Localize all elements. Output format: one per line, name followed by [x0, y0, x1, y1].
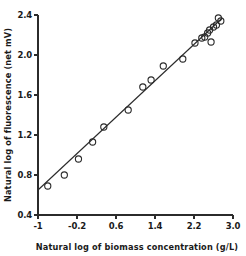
data-point	[208, 39, 214, 45]
regression-line	[38, 18, 222, 190]
data-point	[61, 172, 67, 178]
y-axis-tick-labels: 0.40.81.21.62.02.4	[18, 10, 33, 220]
y-tick-label: 2.0	[18, 50, 33, 60]
data-point	[140, 84, 146, 90]
y-tick-label: 1.6	[18, 90, 33, 100]
scatter-plot: 0.40.81.21.62.02.4 -1-0.20.61.42.23.0 Na…	[0, 0, 246, 256]
figure-container: 0.40.81.21.62.02.4 -1-0.20.61.42.23.0 Na…	[0, 0, 246, 256]
data-point	[45, 183, 51, 189]
y-axis-title: Natural log of fluorescence (net mV)	[3, 28, 13, 202]
data-point	[125, 107, 131, 113]
x-tick-label: 1.4	[148, 221, 163, 231]
data-points	[45, 15, 224, 189]
x-tick-label: -1	[33, 221, 42, 231]
y-tick-label: 0.4	[18, 210, 33, 220]
data-point	[75, 156, 81, 162]
x-axis-tick-labels: -1-0.20.61.42.23.0	[33, 221, 240, 231]
y-tick-label: 2.4	[18, 10, 33, 20]
data-point	[148, 77, 154, 83]
y-tick-label: 1.2	[18, 130, 33, 140]
data-point	[160, 63, 166, 69]
x-tick-label: -0.2	[68, 221, 86, 231]
x-tick-label: 2.2	[187, 221, 202, 231]
data-point	[90, 139, 96, 145]
x-tick-label: 0.6	[109, 221, 124, 231]
x-axis-title: Natural log of biomass concentration (g/…	[36, 242, 238, 252]
plot-spines	[38, 15, 233, 215]
y-tick-label: 0.8	[18, 170, 33, 180]
data-point	[180, 56, 186, 62]
x-tick-label: 3.0	[226, 221, 241, 231]
